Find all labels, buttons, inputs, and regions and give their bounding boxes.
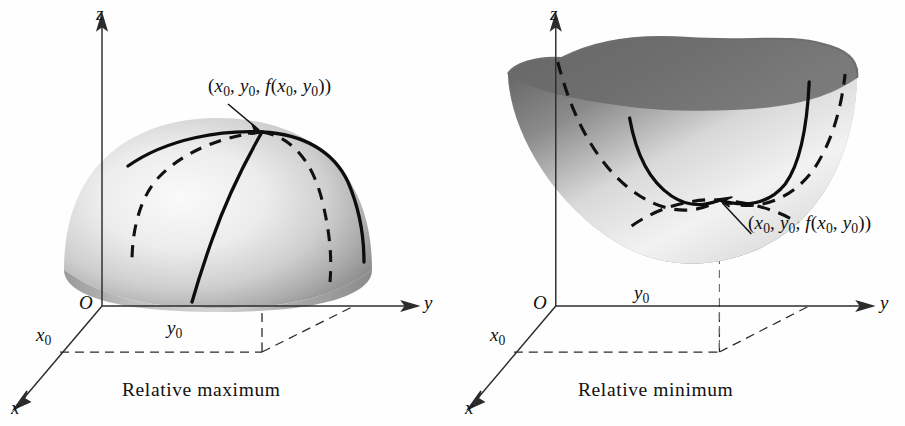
critical-point-label: (x0, y0, f(x0, y0)) [208, 76, 331, 99]
critical-point-label: (x0, y0, f(x0, y0)) [748, 213, 871, 236]
y0-tick-label: y0 [167, 318, 182, 341]
panel-relative-minimum: z y x O x0 y0 (x0, y0, f(x0, y0)) Relati… [452, 0, 904, 426]
px-subscript: 0 [223, 84, 230, 99]
px-variable: x [755, 212, 764, 233]
y0-tick-label: y0 [634, 283, 649, 306]
x0-subscript: 0 [498, 333, 505, 348]
comma-2: , [795, 212, 805, 233]
panel-caption-minimum: Relative minimum [578, 379, 733, 401]
projection-lines-min [514, 306, 807, 352]
fx-variable: x [817, 212, 826, 233]
fx-subscript: 0 [826, 221, 833, 236]
x0-tick-label: x0 [36, 325, 51, 348]
y0-subscript: 0 [175, 326, 182, 341]
x0-tick-label: x0 [490, 325, 505, 348]
panel-caption-maximum: Relative maximum [122, 379, 281, 401]
fx-subscript: 0 [286, 84, 293, 99]
py-variable: y [240, 75, 249, 96]
x0-subscript: 0 [44, 333, 51, 348]
comma-1: , [230, 75, 240, 96]
x-axis-label: x [11, 398, 19, 417]
px-variable: x [215, 75, 224, 96]
fx-variable: x [277, 75, 286, 96]
relative-maximum-graphic [0, 0, 452, 426]
origin-label: O [79, 293, 93, 312]
comma-1: , [770, 212, 780, 233]
comma-3: , [293, 75, 303, 96]
y-axis-label: y [880, 293, 888, 312]
comma-3: , [833, 212, 843, 233]
paren-close: ) [325, 75, 332, 96]
z-axis-label: z [96, 4, 103, 23]
x-axis-label: x [465, 398, 473, 417]
panel-relative-maximum: z y x O x0 y0 (x0, y0, f(x0, y0)) Relati… [0, 0, 452, 426]
y-axis-label: y [424, 293, 432, 312]
z-axis-label: z [550, 4, 557, 23]
figure-root: z y x O x0 y0 (x0, y0, f(x0, y0)) Relati… [0, 0, 905, 426]
y0-subscript: 0 [642, 291, 649, 306]
comma-2: , [255, 75, 265, 96]
py-variable: y [780, 212, 789, 233]
px-subscript: 0 [763, 221, 770, 236]
paren-close: ) [865, 212, 872, 233]
origin-label: O [533, 293, 547, 312]
